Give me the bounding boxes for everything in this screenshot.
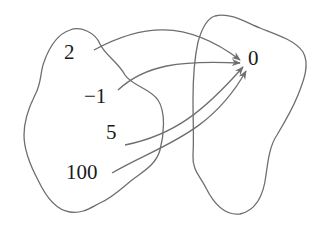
domain-element-5: 5 (106, 122, 117, 143)
arrow-neg1-to-0 (118, 62, 240, 90)
codomain-element-0: 0 (248, 48, 259, 69)
domain-element-neg1: −1 (84, 86, 106, 107)
domain-element-2: 2 (64, 42, 75, 63)
domain-element-100: 100 (66, 162, 98, 183)
mapping-diagram: 2 −1 5 100 0 (0, 0, 325, 228)
arrow-2-to-0 (94, 30, 240, 60)
domain-set-outline (24, 29, 164, 213)
arrow-5-to-0 (125, 67, 243, 145)
codomain-set-outline (193, 15, 306, 214)
diagram-graphics (0, 0, 325, 228)
